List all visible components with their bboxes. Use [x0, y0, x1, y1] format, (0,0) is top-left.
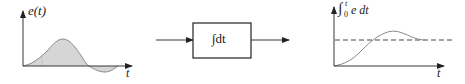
integral-sign: ∫ — [338, 0, 342, 17]
upper-limit: t — [345, 0, 347, 8]
output-x-axis-label: t — [437, 66, 440, 81]
integrator-label: ∫dt — [212, 31, 226, 47]
input-y-axis-label: e(t) — [28, 3, 46, 19]
output-y-axis-label: ∫ t 0 e dt — [338, 0, 398, 22]
lower-limit: 0 — [344, 10, 348, 19]
integral-curve — [334, 31, 425, 66]
input-x-axis-label: t — [126, 66, 129, 81]
integrand: e dt — [351, 3, 369, 18]
input-plot — [23, 11, 132, 72]
